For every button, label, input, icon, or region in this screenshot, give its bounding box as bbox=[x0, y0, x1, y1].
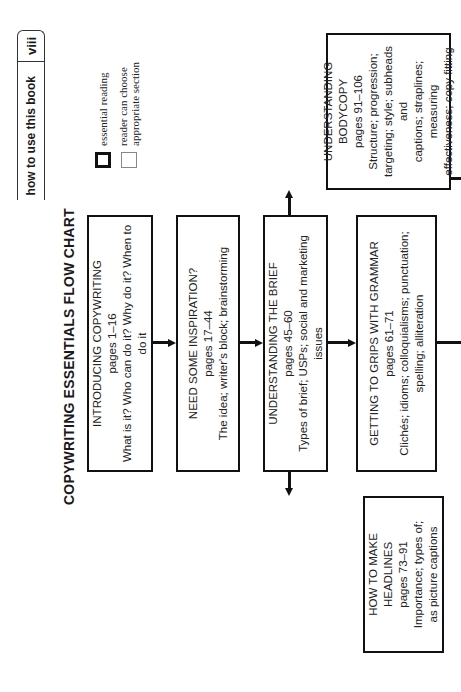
box-headlines: HOW TO MAKE HEADLINES pages 73–91 Import… bbox=[363, 496, 444, 653]
connector-line bbox=[240, 342, 256, 345]
flow-chart-page: how to use this book viii COPYWRITING ES… bbox=[0, 0, 461, 692]
box-topics: The idea; writer's block; brainstorming bbox=[216, 247, 231, 440]
connector-line bbox=[328, 342, 349, 345]
box-pages: pages 17–44 bbox=[201, 310, 216, 377]
legend-optional-label: reader can choose appropriate section bbox=[117, 62, 141, 146]
box-understanding-brief: UNDERSTANDING THE BRIEF pages 45–60 Type… bbox=[263, 215, 328, 472]
box-understanding-bodycopy: UNDERSTANDING BODYCOPY pages 91–106 Stru… bbox=[326, 33, 451, 190]
box-topics-line1: Importance; types of; bbox=[411, 521, 426, 628]
box-topics: Types of brief; USPs; social and marketi… bbox=[296, 223, 326, 464]
arrow-down-icon bbox=[255, 339, 263, 347]
box-pages: pages 45–60 bbox=[281, 310, 296, 377]
box-topics-line2: spelling; alliteration bbox=[412, 295, 427, 393]
box-introducing-copywriting: INTRODUCING COPYWRITING pages 1–16 What … bbox=[87, 215, 153, 472]
box-pages: pages 73–91 bbox=[396, 541, 411, 608]
connector-line-offpage bbox=[451, 178, 461, 181]
box-pages: pages 61–71 bbox=[382, 310, 397, 377]
box-heading: HOW TO MAKE HEADLINES bbox=[366, 504, 396, 645]
box-topics-line1: Structure; progression; bbox=[366, 53, 381, 169]
box-heading: UNDERSTANDING THE BRIEF bbox=[266, 262, 281, 425]
box-pages: pages 91–106 bbox=[351, 75, 366, 148]
arrow-down-icon bbox=[348, 339, 356, 347]
legend-optional-line2: appropriate section bbox=[129, 62, 141, 146]
section-label: how to use this book bbox=[24, 76, 38, 195]
box-topics: What is it? Who can do it? Why do it? Wh… bbox=[120, 223, 150, 464]
legend-essential-label: essential reading bbox=[97, 72, 109, 146]
connector-line bbox=[153, 342, 169, 345]
thick-box-swatch-icon bbox=[95, 152, 111, 168]
box-heading-line1: UNDERSTANDING bbox=[321, 62, 336, 161]
legend: essential reading reader can choose appr… bbox=[95, 58, 147, 168]
box-heading: GETTING TO GRIPS WITH GRAMMAR bbox=[367, 241, 382, 446]
connector-line-offpage bbox=[437, 342, 461, 345]
box-need-inspiration: NEED SOME INSPIRATION? pages 17–44 The i… bbox=[176, 215, 240, 472]
box-topics-line1: Clichés; idioms; colloquialisms; punctua… bbox=[397, 231, 412, 455]
connector-line bbox=[288, 472, 291, 489]
legend-essential: essential reading bbox=[95, 58, 111, 168]
chart-title: COPYWRITING ESSENTIALS FLOW CHART bbox=[61, 185, 77, 505]
page-header-tab: how to use this book viii bbox=[17, 30, 45, 200]
arrow-down-icon bbox=[168, 339, 176, 347]
box-heading: NEED SOME INSPIRATION? bbox=[186, 268, 201, 419]
box-heading-line2: BODYCOPY bbox=[336, 79, 351, 144]
legend-optional: reader can choose appropriate section bbox=[117, 58, 141, 168]
box-topics-line3: captions; straplines; measuring bbox=[411, 41, 441, 182]
arrow-left-icon bbox=[285, 488, 293, 496]
box-pages: pages 1–16 bbox=[105, 313, 120, 373]
arrow-right-icon bbox=[285, 190, 293, 198]
box-topics-line2: targeting; style; subheads and bbox=[381, 41, 411, 182]
box-heading: INTRODUCING COPYWRITING bbox=[90, 260, 105, 427]
legend-optional-line1: reader can choose bbox=[117, 67, 129, 146]
box-topics-line2: as picture captions bbox=[426, 527, 441, 623]
box-topics-line4: effectiveness; copy fitting bbox=[441, 47, 456, 175]
connector-line bbox=[288, 197, 291, 215]
box-grammar: GETTING TO GRIPS WITH GRAMMAR pages 61–7… bbox=[356, 215, 437, 472]
page-number: viii bbox=[18, 31, 44, 62]
thin-box-swatch-icon bbox=[121, 152, 137, 168]
